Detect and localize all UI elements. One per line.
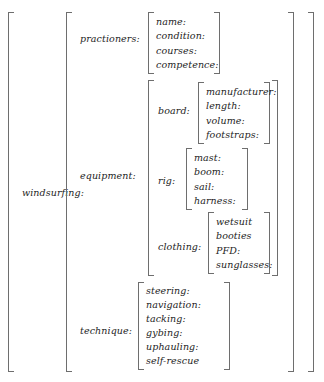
leaf-item: condition:	[156, 31, 220, 41]
leaf-item: name:	[156, 17, 220, 27]
leaf-item: sail:	[194, 182, 250, 192]
leaf-item: tacking:	[146, 314, 232, 324]
attr-label-rig: rig:	[158, 176, 175, 186]
list-rig-items: mast: boom: sail: harness:	[194, 148, 250, 210]
bracket-left-root	[8, 12, 14, 372]
bracket-left-level2	[66, 12, 72, 372]
list-practioners-items: name: condition: courses: competence:	[156, 12, 220, 74]
leaf-item: footstraps:	[206, 130, 274, 140]
bracket-right-level2	[288, 12, 294, 372]
attr-label-technique: technique:	[80, 326, 132, 336]
leaf-item: self-rescue	[146, 356, 232, 366]
attr-label-board: board:	[158, 106, 190, 116]
leaf-item: booties	[216, 231, 274, 241]
list-clothing-items: wetsuit booties PFD: sunglasses:	[216, 212, 274, 274]
leaf-item: gybing:	[146, 328, 232, 338]
leaf-item: navigation:	[146, 300, 232, 310]
leaf-item: length:	[206, 101, 274, 111]
leaf-item: competence:	[156, 60, 220, 70]
bracket-left-board	[198, 82, 204, 144]
feature-structure-diagram: windsurfing: practioners: name: conditio…	[0, 0, 324, 382]
list-technique-items: steering: navigation: tacking: gybing: u…	[146, 282, 232, 370]
bracket-left-clothing	[208, 212, 214, 274]
leaf-item: manufacturer:	[206, 87, 274, 97]
leaf-item: PFD:	[216, 246, 274, 256]
bracket-left-rig	[186, 148, 192, 210]
attr-label-practioners: practioners:	[80, 34, 140, 44]
leaf-item: harness:	[194, 196, 250, 206]
leaf-item: boom:	[194, 167, 250, 177]
bracket-left-technique	[138, 282, 144, 370]
leaf-item: wetsuit	[216, 217, 274, 227]
leaf-item: mast:	[194, 153, 250, 163]
leaf-item: courses:	[156, 46, 220, 56]
attr-label-clothing: clothing:	[158, 242, 201, 252]
leaf-item: uphauling:	[146, 342, 232, 352]
bracket-left-equipment	[148, 80, 154, 276]
leaf-item: steering:	[146, 286, 232, 296]
leaf-item: volume:	[206, 116, 274, 126]
bracket-left-practioners	[148, 12, 154, 74]
leaf-item: sunglasses:	[216, 260, 274, 270]
bracket-right-root	[308, 12, 314, 372]
list-board-items: manufacturer: length: volume: footstraps…	[206, 82, 274, 144]
attr-label-equipment: equipment:	[80, 171, 136, 181]
